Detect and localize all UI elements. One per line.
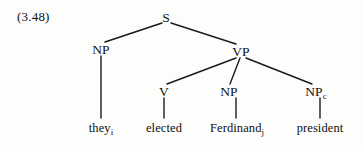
edge-s-vp xyxy=(171,23,236,44)
figure-canvas: (3.48) S NP VP V NP NPc theyi elect xyxy=(0,0,363,146)
tree-leaf-elected-text: elected xyxy=(146,121,182,135)
tree-node-np-complement-label: NP xyxy=(305,84,323,99)
tree-leaf-ferdinand: Ferdinandj xyxy=(210,121,264,136)
tree-leaf-president: president xyxy=(297,121,344,136)
edge-s-np xyxy=(105,23,162,42)
tree-node-s-label: S xyxy=(162,10,170,25)
tree-node-np-object-label: NP xyxy=(220,84,238,99)
tree-leaf-president-text: president xyxy=(297,121,344,135)
tree-node-np-complement-subscript: c xyxy=(323,91,327,101)
tree-leaf-they: theyi xyxy=(89,121,113,136)
tree-node-np-object: NP xyxy=(220,84,238,100)
tree-node-np-complement: NPc xyxy=(305,84,327,100)
tree-node-v: V xyxy=(159,84,169,100)
tree-leaf-ferdinand-subscript: j xyxy=(262,127,265,137)
tree-node-vp: VP xyxy=(232,44,250,60)
tree-leaf-elected: elected xyxy=(146,121,182,136)
tree-node-np-subject-label: NP xyxy=(92,42,110,57)
tree-node-v-label: V xyxy=(159,84,169,99)
edge-vp-npc xyxy=(246,58,312,84)
tree-node-s: S xyxy=(162,10,170,26)
tree-leaf-ferdinand-text: Ferdinand xyxy=(210,121,262,135)
tree-node-vp-label: VP xyxy=(232,44,250,59)
tree-node-np-subject: NP xyxy=(92,42,110,58)
tree-leaf-they-subscript: i xyxy=(111,127,114,137)
edge-vp-np xyxy=(230,58,240,84)
tree-leaf-they-text: they xyxy=(89,121,111,135)
edge-vp-v xyxy=(167,58,236,84)
